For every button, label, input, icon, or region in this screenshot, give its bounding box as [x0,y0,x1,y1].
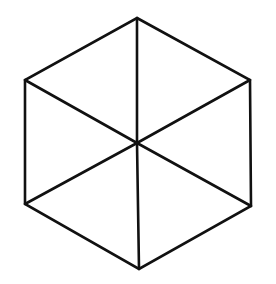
hexagon-diagram [0,0,276,284]
